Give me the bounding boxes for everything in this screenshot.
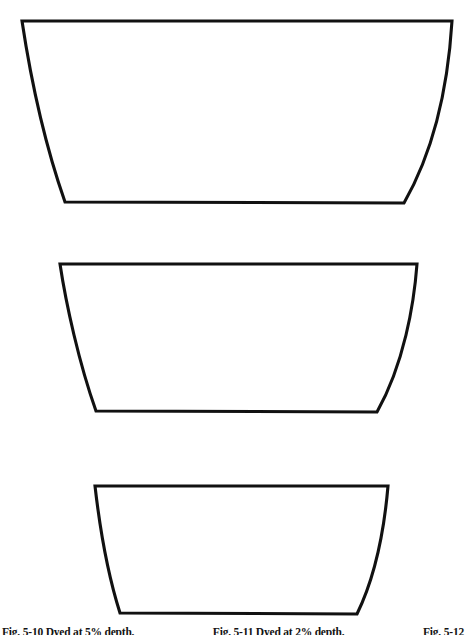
figure-page: Fig. 5-10 Dyed at 5% depth. Fig. 5-11 Dy… xyxy=(0,0,466,635)
figure-caption-line: Fig. 5-10 Dyed at 5% depth. Fig. 5-11 Dy… xyxy=(0,627,466,635)
figure-caption-1: Fig. 5-10 Dyed at 5% depth. xyxy=(2,627,134,635)
trapezoid-large xyxy=(22,21,452,203)
line-drawing-canvas xyxy=(0,0,466,635)
figure-caption-2: Fig. 5-11 Dyed at 2% depth. xyxy=(213,627,345,635)
trapezoid-small xyxy=(95,486,388,614)
trapezoid-medium xyxy=(60,264,417,412)
figure-caption-3: Fig. 5-12 xyxy=(423,627,464,635)
figure-caption-strip: Fig. 5-10 Dyed at 5% depth. Fig. 5-11 Dy… xyxy=(0,627,466,635)
